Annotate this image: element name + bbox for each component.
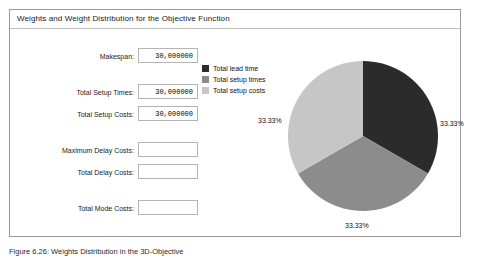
pie-label-total-setup-times: 33.33% [345, 222, 369, 229]
field-total-setup-times: Total Setup Times: 30,000000 [28, 84, 198, 104]
field-label-total-setup-times: Total Setup Times: [76, 89, 134, 96]
form-spacer-2 [28, 128, 198, 142]
pie-label-total-lead-time: 33.33% [440, 120, 464, 127]
field-value-makespan: 30,000000 [155, 52, 193, 60]
form-spacer-3 [28, 186, 198, 200]
field-label-makespan: Makespan: [100, 53, 134, 60]
panel-title: Weights and Weight Distribution for the … [17, 14, 230, 23]
field-label-total-setup-costs: Total Setup Costs: [77, 111, 134, 118]
legend-item-total-lead-time: Total lead time [202, 63, 266, 74]
field-value-total-setup-costs: 30,000000 [155, 110, 193, 118]
field-label-total-mode-costs: Total Mode Costs: [78, 205, 134, 212]
legend-label-total-setup-costs: Total setup costs [213, 85, 265, 96]
chart-legend: Total lead time Total setup times Total … [202, 63, 266, 96]
field-input-total-setup-times[interactable]: 30,000000 [138, 84, 198, 99]
legend-swatch-icon [202, 65, 209, 72]
field-label-total-delay-costs: Total Delay Costs: [78, 169, 134, 176]
legend-item-total-setup-costs: Total setup costs [202, 85, 266, 96]
field-input-makespan[interactable]: 30,000000 [138, 48, 198, 63]
field-makespan: Makespan: 30,000000 [28, 48, 198, 68]
panel-title-divider [10, 28, 460, 29]
field-total-delay-costs: Total Delay Costs: [28, 164, 198, 184]
field-label-maximum-delay-costs: Maximum Delay Costs: [62, 147, 134, 154]
pie-chart-svg [287, 60, 439, 212]
field-input-maximum-delay-costs[interactable] [138, 142, 198, 157]
screenshot-root: Weights and Weight Distribution for the … [0, 0, 480, 279]
field-value-total-setup-times: 30,000000 [155, 88, 193, 96]
legend-swatch-icon [202, 76, 209, 83]
field-maximum-delay-costs: Maximum Delay Costs: [28, 142, 198, 162]
weights-form: Makespan: 30,000000 Total Setup Times: 3… [28, 48, 198, 222]
legend-item-total-setup-times: Total setup times [202, 74, 266, 85]
legend-label-total-lead-time: Total lead time [213, 63, 258, 74]
field-total-setup-costs: Total Setup Costs: 30,000000 [28, 106, 198, 126]
field-input-total-mode-costs[interactable] [138, 200, 198, 215]
field-input-total-delay-costs[interactable] [138, 164, 198, 179]
field-input-total-setup-costs[interactable]: 30,000000 [138, 106, 198, 121]
legend-swatch-icon [202, 87, 209, 94]
legend-label-total-setup-times: Total setup times [213, 74, 266, 85]
pie-label-total-setup-costs: 33.33% [258, 117, 282, 124]
field-total-mode-costs: Total Mode Costs: [28, 200, 198, 220]
pie-chart [287, 60, 439, 212]
figure-caption: Figure 6.26: Weights Distribution in the… [9, 247, 469, 256]
form-spacer-1 [28, 70, 198, 84]
